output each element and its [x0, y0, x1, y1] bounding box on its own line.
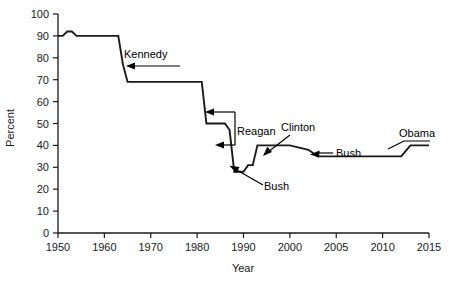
clinton-leader-line	[268, 135, 290, 152]
bush-lower-leader-line	[235, 169, 263, 185]
data-line-series-0	[58, 32, 429, 172]
x-tick-label-1980: 1980	[185, 241, 209, 253]
y-tick-label-100: 100	[31, 8, 49, 20]
annotation-label-reagan: Reagan	[237, 125, 276, 137]
y-tick-label-40: 40	[37, 139, 49, 151]
y-tick-label-20: 20	[37, 183, 49, 195]
chart-container: 0102030405060708090100 19501960197019801…	[0, 0, 454, 287]
x-tick-label-1990: 1990	[231, 241, 255, 253]
y-axis-title: Percent	[4, 109, 16, 147]
x-tick-label-1970: 1970	[139, 241, 163, 253]
tax-rate-line-chart: 0102030405060708090100 19501960197019801…	[0, 0, 454, 287]
x-tick-label-1960: 1960	[92, 241, 116, 253]
y-tick-label-90: 90	[37, 30, 49, 42]
y-tick-label-70: 70	[37, 74, 49, 86]
x-tick-label-2010: 2010	[370, 241, 394, 253]
y-tick-label-80: 80	[37, 52, 49, 64]
reagan-arrow-head-lower	[215, 142, 224, 149]
y-tick-label-60: 60	[37, 96, 49, 108]
axes	[58, 14, 429, 233]
y-axis-ticks	[53, 14, 58, 233]
annotation-label-clinton: Clinton	[281, 121, 315, 133]
annotation-label-kennedy: Kennedy	[124, 48, 168, 60]
x-tick-label-2000: 2000	[278, 241, 302, 253]
y-tick-label-50: 50	[37, 118, 49, 130]
x-tick-label-2005: 2005	[324, 241, 348, 253]
y-tick-label-0: 0	[43, 227, 49, 239]
annotation-label-bush-1990: Bush	[264, 180, 289, 192]
x-tick-label-1950: 1950	[46, 241, 70, 253]
x-axis-title: Year	[232, 262, 255, 274]
y-axis-tick-labels: 0102030405060708090100	[31, 8, 49, 239]
y-tick-label-10: 10	[37, 205, 49, 217]
x-tick-label-2015: 2015	[417, 241, 441, 253]
kennedy-arrow-head	[126, 63, 135, 70]
annotation-label-obama: Obama	[399, 127, 436, 139]
y-tick-label-30: 30	[37, 161, 49, 173]
annotation-label-bush-2003: Bush	[336, 147, 361, 159]
clinton-arrow-head	[263, 147, 272, 156]
reagan-arrow-head-upper	[205, 109, 214, 116]
annotation-labels: Kennedy Reagan Bush Clinton Bush Obama	[124, 48, 436, 192]
x-axis-ticks	[58, 233, 429, 238]
x-axis-tick-labels: 195019601970198019902000200520102015	[46, 241, 441, 253]
